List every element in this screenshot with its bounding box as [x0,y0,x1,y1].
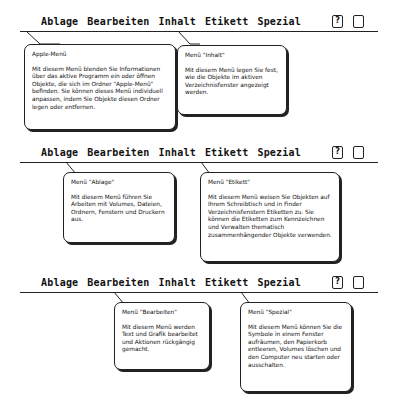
menu-bearbeiten[interactable]: Bearbeiten [87,277,149,288]
bubble-spezial: Menü "Spezial" Mit diesem Menü können Si… [240,302,352,392]
menu-inhalt[interactable]: Inhalt [159,277,196,288]
menu-ablage[interactable]: Ablage [41,277,78,288]
menu-bearbeiten[interactable]: Bearbeiten [87,16,149,27]
menubar-2: Ablage Bearbeiten Inhalt Etikett Spezial… [20,145,378,163]
finder-app-icon[interactable] [353,276,364,289]
bubble-body: Mit diesem Menü weisen Sie Objekten auf … [208,194,332,240]
bubble-title: Menü "Spezial" [248,309,344,317]
menubar-3: Ablage Bearbeiten Inhalt Etikett Spezial… [20,275,378,293]
menu-ablage[interactable]: Ablage [41,147,78,158]
bubble-body: Mit diesem Menü legen Sie fest, wie die … [185,67,279,97]
menu-etikett[interactable]: Etikett [205,147,249,158]
menu-spezial[interactable]: Spezial [257,16,301,27]
bubble-body: Mit diesem Menü werden Text und Grafik b… [122,324,202,354]
bubble-bearbeiten: Menü "Bearbeiten" Mit diesem Menü werden… [114,302,210,370]
bubble-title: Menü "Bearbeiten" [122,309,202,317]
menu-ablage[interactable]: Ablage [41,16,78,27]
help-balloon-icon[interactable]: ? [332,15,343,28]
menu-spezial[interactable]: Spezial [257,147,301,158]
finder-app-icon[interactable] [353,146,364,159]
menu-etikett[interactable]: Etikett [205,16,249,27]
bubble-body: Mit diesem Menü können Sie die Symbole i… [248,324,344,370]
help-balloon-icon[interactable]: ? [332,146,343,159]
bubble-title: Menü "Inhalt" [185,52,279,60]
menu-inhalt[interactable]: Inhalt [159,147,196,158]
finder-app-icon[interactable] [353,15,364,28]
bubble-body: Mit diesem Menü blenden Sie Informatione… [32,66,168,112]
bubble-apple-menu: Apple-Menü Mit diesem Menü blenden Sie I… [24,44,176,130]
menu-inhalt[interactable]: Inhalt [159,16,196,27]
bubble-inhalt: Menü "Inhalt" Mit diesem Menü legen Sie … [177,45,287,115]
menu-etikett[interactable]: Etikett [205,277,249,288]
bubble-title: Menü "Ablage" [71,179,167,187]
bubble-etikett: Menü "Etikett" Mit diesem Menü weisen Si… [200,172,340,262]
bubble-title: Menü "Etikett" [208,179,332,187]
menu-spezial[interactable]: Spezial [257,277,301,288]
menubar-1: Ablage Bearbeiten Inhalt Etikett Spezial… [20,14,378,32]
help-balloon-icon[interactable]: ? [332,276,343,289]
bubble-title: Apple-Menü [32,51,168,59]
bubble-ablage: Menü "Ablage" Mit diesem Menü führen Sie… [63,172,175,243]
menu-bearbeiten[interactable]: Bearbeiten [87,147,149,158]
bubble-body: Mit diesem Menü führen Sie Arbeiten mit … [71,194,167,224]
